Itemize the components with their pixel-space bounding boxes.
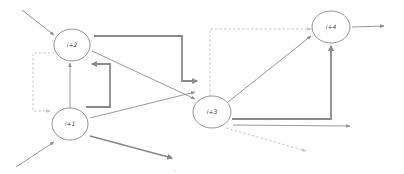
stray-dot	[174, 170, 175, 171]
node-label-i1: i+1	[65, 120, 76, 127]
edge-i3-out-dashed	[226, 128, 306, 151]
flow-diagram: i+2 i+1 i+3 i+4	[0, 0, 404, 174]
edge-i3-out-thin	[233, 125, 350, 126]
edge-in-to-i1	[16, 142, 54, 167]
node-i4: i+4	[312, 11, 350, 43]
edge-i4-out	[352, 26, 384, 27]
edge-i3-to-i4-thin	[228, 36, 311, 102]
edge-i2-to-i1-dashed	[33, 53, 55, 111]
node-label-i3: i+3	[207, 108, 218, 115]
edge-in-to-i2	[22, 10, 54, 35]
edge-i1-to-i2-feedback	[86, 64, 110, 107]
node-i3: i+3	[193, 96, 231, 128]
edge-i1-to-i3-thin	[90, 92, 195, 118]
edge-i3-to-i4-dashed	[210, 29, 311, 96]
node-label-i2: i+2	[67, 41, 78, 48]
edge-i2-to-i3-thin	[92, 51, 195, 99]
edge-i1-out-thick	[90, 136, 172, 158]
node-label-i4: i+4	[326, 23, 337, 30]
node-i1: i+1	[52, 108, 88, 140]
node-i2: i+2	[54, 29, 90, 61]
edge-i3-to-i4-thick	[232, 46, 331, 119]
